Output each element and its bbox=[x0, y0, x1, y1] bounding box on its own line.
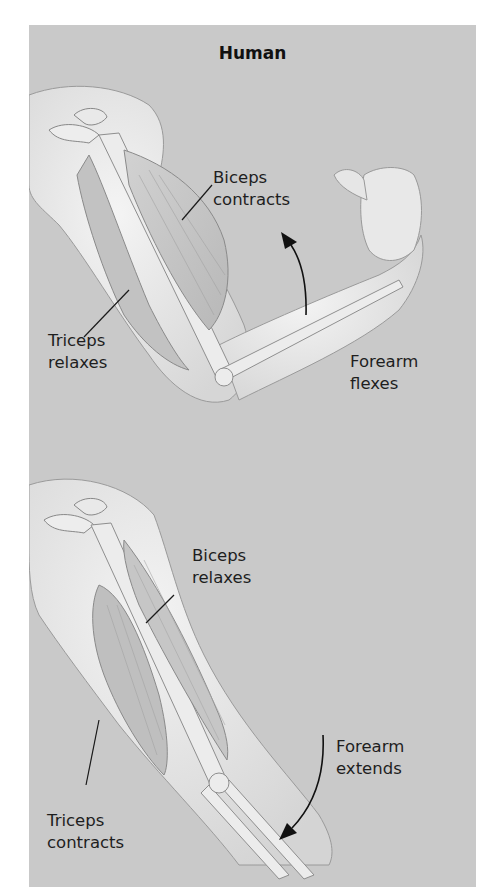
thumb bbox=[334, 170, 367, 200]
label-biceps-relaxes: Biceps relaxes bbox=[192, 545, 251, 589]
fist bbox=[361, 168, 422, 261]
label-triceps-relaxes: Triceps relaxes bbox=[48, 330, 107, 374]
flex-arrow-icon bbox=[291, 245, 306, 315]
figure-panel: Human bbox=[29, 25, 476, 887]
label-triceps-contracts: Triceps contracts bbox=[47, 810, 124, 854]
label-forearm-flexes: Forearm flexes bbox=[350, 351, 418, 395]
label-forearm-extends: Forearm extends bbox=[336, 736, 404, 780]
label-biceps-contracts: Biceps contracts bbox=[213, 167, 290, 211]
